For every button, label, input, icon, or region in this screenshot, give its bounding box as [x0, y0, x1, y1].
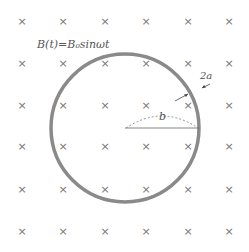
cross-icon: × [58, 57, 67, 70]
cross-icon: × [17, 57, 26, 70]
cross-icon: × [224, 99, 233, 112]
cross-icon: × [224, 140, 233, 153]
cross-icon: × [58, 99, 67, 112]
cross-icon: × [100, 183, 109, 196]
cross-icon: × [58, 225, 67, 238]
cross-icon: × [141, 99, 150, 112]
thickness-label: 2a [200, 70, 212, 81]
cross-icon: × [58, 183, 67, 196]
cross-icon: × [183, 99, 192, 112]
cross-icon: × [183, 183, 192, 196]
cross-icon: × [17, 225, 26, 238]
cross-icon: × [183, 140, 192, 153]
cross-icon: × [17, 15, 26, 28]
cross-icon: × [141, 225, 150, 238]
radius-label: b [159, 110, 166, 123]
cross-icon: × [224, 15, 233, 28]
cross-icon: × [100, 99, 109, 112]
cross-icon: × [141, 15, 150, 28]
cross-icon: × [141, 183, 150, 196]
cross-icon: × [183, 15, 192, 28]
cross-icon: × [58, 140, 67, 153]
cross-icon: × [183, 57, 192, 70]
cross-icon: × [183, 225, 192, 238]
cross-icon: × [58, 15, 67, 28]
cross-icon: × [224, 183, 233, 196]
cross-icon: × [141, 140, 150, 153]
field-equation-label: B(t)=B₀sinωt [37, 38, 109, 51]
cross-icon: × [17, 140, 26, 153]
cross-icon: × [100, 225, 109, 238]
cross-icon: × [17, 183, 26, 196]
cross-icon: × [224, 57, 233, 70]
cross-icon: × [100, 140, 109, 153]
cross-icon: × [224, 225, 233, 238]
cross-icon: × [100, 15, 109, 28]
cross-icon: × [17, 99, 26, 112]
